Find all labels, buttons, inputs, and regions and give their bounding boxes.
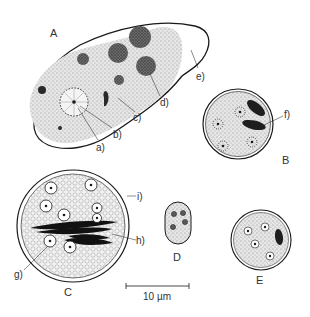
label-f: f) <box>284 109 290 120</box>
cell-a: A a) b) c) d) e) <box>30 23 209 153</box>
granule <box>58 126 62 130</box>
cell-diagram: A a) b) c) d) e) f) B <box>0 0 310 317</box>
cell-d: D <box>165 202 191 263</box>
nucleolus <box>72 100 76 104</box>
label-a: a) <box>96 142 105 153</box>
label-i: i) <box>137 191 143 202</box>
cell-e: E <box>231 210 291 286</box>
vacuole <box>77 53 89 65</box>
label-c: c) <box>133 112 141 123</box>
panel-label-e: E <box>256 274 263 286</box>
label-g: g) <box>14 269 23 280</box>
scale-bar: 10 µm <box>126 283 189 302</box>
label-b: b) <box>113 129 122 140</box>
scale-bar-label: 10 µm <box>143 291 171 302</box>
panel-label-b: B <box>282 154 289 166</box>
cell-a-cytoplasm <box>30 27 183 143</box>
panel-label-c: C <box>64 286 72 298</box>
vacuole <box>129 26 151 48</box>
panel-label-a: A <box>50 27 58 39</box>
label-d: d) <box>160 97 169 108</box>
nucleus-a <box>60 88 88 116</box>
cell-b: f) B <box>203 89 290 166</box>
label-e: e) <box>196 71 205 82</box>
vacuole <box>114 75 124 85</box>
panel-label-d: D <box>173 251 181 263</box>
label-h: h) <box>136 235 145 246</box>
vacuole <box>108 43 128 63</box>
vacuole-d <box>136 56 156 76</box>
cell-c: g) h) i) C <box>14 170 145 298</box>
granule <box>38 86 46 94</box>
